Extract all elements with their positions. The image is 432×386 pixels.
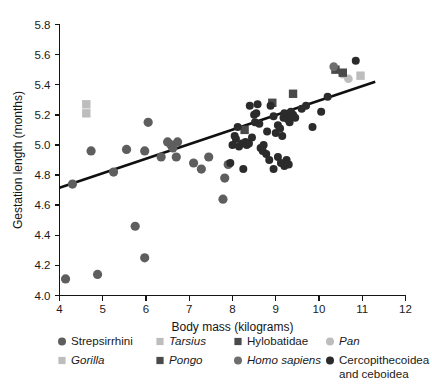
x-tick-label: 6 [143, 303, 149, 315]
legend-item-pan[interactable]: Pan [326, 334, 360, 347]
legend-marker [58, 338, 66, 346]
x-tick-label: 9 [273, 303, 279, 315]
data-point [86, 146, 95, 155]
data-point [329, 62, 338, 71]
data-point [93, 270, 102, 279]
x-tick-label: 7 [186, 303, 192, 315]
y-tick-label: 5.6 [35, 49, 51, 61]
data-point [197, 164, 206, 173]
data-point [255, 120, 263, 128]
data-point [260, 141, 268, 149]
data-point [246, 102, 254, 110]
legend-label: Pongo [169, 353, 203, 366]
data-point [140, 253, 149, 262]
x-tick-label: 12 [399, 303, 412, 315]
y-tick-label: 5.0 [35, 139, 51, 151]
legend-label: Cercopithecoidea [339, 353, 430, 366]
legend-label: Strepsirrhini [71, 334, 133, 347]
x-tick-label: 10 [313, 303, 326, 315]
data-point [270, 112, 278, 120]
data-point [309, 123, 317, 131]
data-point [289, 90, 297, 98]
y-tick-label: 4.2 [35, 259, 51, 271]
series-homo-sapiens [329, 62, 338, 71]
x-tick-label: 11 [356, 303, 368, 315]
data-point [278, 132, 286, 140]
data-point [61, 274, 70, 283]
y-axis-title: Gestation length (months) [11, 91, 25, 229]
y-tick-label: 5.8 [35, 19, 51, 31]
y-tick-label: 4.0 [35, 290, 51, 302]
data-point [157, 152, 166, 161]
data-point [189, 158, 198, 167]
data-point [204, 152, 213, 161]
data-point [220, 173, 229, 182]
legend-item-homo-sapiens[interactable]: Homo sapiens [234, 353, 321, 366]
data-point [317, 108, 325, 116]
data-point [339, 68, 347, 76]
legend-item-gorilla[interactable]: Gorilla [58, 353, 105, 366]
axis-labels: Body mass (kilograms)Gestation length (m… [11, 91, 294, 334]
data-point [291, 114, 299, 122]
data-points [61, 57, 365, 284]
legend-marker [234, 338, 241, 345]
legend-marker [156, 338, 163, 345]
data-point [239, 165, 247, 173]
data-point [82, 109, 90, 117]
data-point [173, 137, 182, 146]
legend-item-cercopithecoidea[interactable]: Cercopithecoideaand ceboidea [326, 353, 430, 380]
data-point [172, 152, 181, 161]
legend-item-pongo[interactable]: Pongo [156, 353, 203, 366]
legend-label: Gorilla [71, 353, 105, 366]
x-tick-label: 8 [229, 303, 235, 315]
data-point [265, 156, 273, 164]
legend-label-line2: and ceboidea [339, 367, 409, 380]
data-point [68, 179, 77, 188]
data-point [140, 146, 149, 155]
legend-label: Pan [339, 334, 360, 347]
data-point [263, 127, 271, 135]
data-point [252, 109, 260, 117]
y-tick-label: 4.4 [35, 229, 52, 241]
data-point [131, 222, 140, 231]
data-point [254, 100, 262, 108]
legend-label: Tarsius [169, 334, 206, 347]
series-strepsirrhini [61, 118, 233, 284]
chart-legend: StrepsirrhiniTarsiusHylobatidaePanGorill… [58, 334, 430, 380]
data-point [352, 57, 360, 65]
legend-item-strepsirrhini[interactable]: Strepsirrhini [58, 334, 133, 347]
series-tarsius [82, 100, 90, 117]
data-point [122, 145, 131, 154]
data-point [82, 100, 90, 108]
legend-marker [326, 357, 334, 365]
data-point [356, 71, 364, 79]
x-tick-label: 4 [56, 303, 63, 315]
legend-label: Hylobatidae [247, 334, 308, 347]
x-tick-label: 5 [100, 303, 106, 315]
data-point [226, 159, 234, 167]
y-tick-label: 5.4 [35, 79, 52, 91]
legend-item-tarsius[interactable]: Tarsius [156, 334, 206, 347]
chart-figure: 4.04.24.44.64.85.05.25.45.65.84567891011… [0, 0, 432, 386]
data-point [144, 118, 153, 127]
data-point [248, 133, 256, 141]
data-point [276, 124, 284, 132]
data-point [285, 161, 293, 169]
legend-item-hylobatidae[interactable]: Hylobatidae [234, 334, 308, 347]
data-point [109, 167, 118, 176]
legend-label: Homo sapiens [247, 353, 321, 366]
data-point [324, 93, 332, 101]
y-tick-label: 5.2 [35, 109, 51, 121]
scatter-plot: 4.04.24.44.64.85.05.25.45.65.84567891011… [0, 0, 432, 386]
y-tick-label: 4.8 [35, 169, 51, 181]
legend-marker [156, 357, 163, 364]
data-point [267, 102, 275, 110]
legend-marker [326, 338, 334, 346]
series-gorilla [356, 71, 364, 79]
data-point [302, 102, 310, 110]
legend-marker [58, 357, 65, 364]
data-point [270, 165, 278, 173]
data-point [234, 123, 242, 131]
legend-marker [234, 357, 242, 365]
data-point [218, 195, 227, 204]
